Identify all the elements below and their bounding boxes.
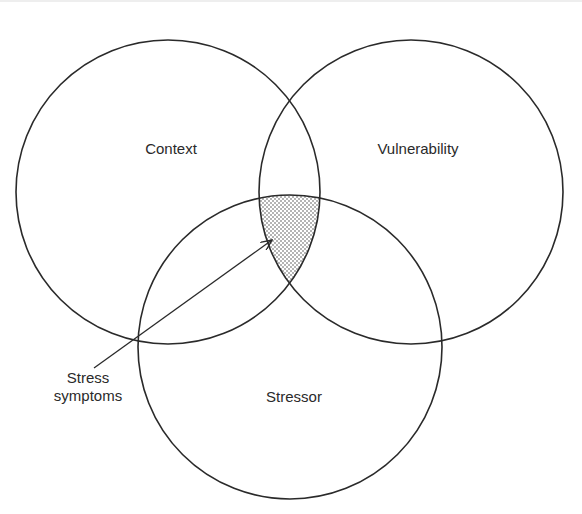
label-stress-symptoms-line1: Stress (38, 369, 138, 387)
label-stress-symptoms-line2: symptoms (38, 387, 138, 405)
circle-vulnerability (259, 40, 563, 344)
label-vulnerability: Vulnerability (358, 140, 478, 158)
circle-context (16, 40, 320, 344)
label-stressor: Stressor (252, 388, 336, 406)
venn-diagram-graphic (0, 0, 582, 514)
label-stress-symptoms: Stress symptoms (38, 369, 138, 405)
intersection-shading (138, 195, 442, 499)
venn-diagram: Context Vulnerability Stressor Stress sy… (0, 0, 582, 514)
label-context: Context (128, 140, 214, 158)
pointer-arrow (94, 240, 272, 368)
